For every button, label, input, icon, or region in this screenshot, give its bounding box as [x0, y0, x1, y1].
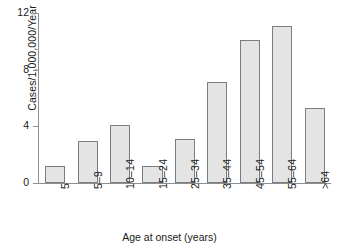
- x-tick-label: 45–54: [254, 159, 266, 189]
- y-tick-label: 4: [23, 119, 29, 131]
- plot-area: 04812 55–910–1415–2425–3435–4445–5455–64…: [38, 13, 331, 183]
- y-tick: 12: [33, 13, 38, 14]
- x-tick-label: 55–64: [286, 159, 298, 189]
- x-tick-label: 5: [59, 183, 71, 189]
- x-tick-label: 15–24: [157, 159, 169, 189]
- bar-series: [39, 13, 331, 183]
- x-tick-label: >64: [319, 171, 331, 189]
- y-tick: 0: [33, 183, 38, 184]
- y-tick-label: 12: [17, 6, 29, 18]
- x-tick-label: 25–34: [189, 159, 201, 189]
- y-tick: 4: [33, 126, 38, 127]
- y-tick: 8: [33, 70, 38, 71]
- chart-figure: Cases/1,000,000/Year 04812 55–910–1415–2…: [0, 0, 339, 249]
- x-axis-title: Age at onset (years): [0, 231, 339, 243]
- y-tick-label: 8: [23, 63, 29, 75]
- x-tick-label: 10–14: [124, 159, 136, 189]
- x-tick-label: 35–44: [221, 159, 233, 189]
- y-tick-label: 0: [23, 176, 29, 188]
- x-tick-label: 5–9: [92, 171, 104, 189]
- bar: [45, 166, 65, 183]
